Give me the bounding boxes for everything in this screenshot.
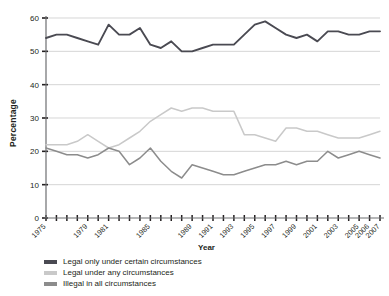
x-axis-title-text: Year <box>198 243 215 252</box>
legend-item: Legal only under certain circumstances <box>44 256 374 267</box>
legend-item: Legal under any circumstances <box>44 267 374 278</box>
x-axis-tick-label: 1999 <box>280 222 298 240</box>
gridlines-group <box>46 18 380 185</box>
x-axis-tick-label: 1985 <box>134 222 152 240</box>
chart-legend: Legal only under certain circumstancesLe… <box>44 256 374 289</box>
chart-figure: 0102030405060 19751979198119851989199119… <box>0 0 389 296</box>
legend-swatch-icon <box>44 282 57 286</box>
legend-label: Legal only under certain circumstances <box>63 256 202 267</box>
legend-swatch-icon <box>44 260 57 264</box>
y-axis-tick-label: 60 <box>30 14 39 23</box>
x-axis-tick-label: 1997 <box>259 222 277 240</box>
y-axis-tick-label: 30 <box>30 114 39 123</box>
x-axis-title: Year <box>0 243 389 252</box>
x-axis-tick-label: 1979 <box>71 222 89 240</box>
x-axis-tick-label: 1995 <box>238 222 256 240</box>
y-axis-tick-label: 50 <box>30 47 39 56</box>
axis-lines-group <box>44 16 384 218</box>
line-chart-svg: 0102030405060 19751979198119851989199119… <box>0 0 389 240</box>
data-line-3 <box>46 148 380 178</box>
x-axis-tick-labels-group: 1975197919811985198919911993199519971999… <box>30 222 382 240</box>
y-axis-ticks-group: 0102030405060 <box>30 14 48 223</box>
x-axis-tick-label: 1981 <box>92 222 110 240</box>
x-axis-tick-label: 1975 <box>30 222 48 240</box>
y-axis-tick-label: 10 <box>30 181 39 190</box>
x-axis-tick-label: 2003 <box>322 222 340 240</box>
y-axis-tick-label: 20 <box>30 147 39 156</box>
x-axis-tick-label: 1989 <box>176 222 194 240</box>
data-line-1 <box>46 21 380 51</box>
x-axis-tick-label: 1993 <box>217 222 235 240</box>
plot-area: 0102030405060 19751979198119851989199119… <box>0 0 389 240</box>
legend-label: Illegal in all circumstances <box>63 278 156 289</box>
legend-item: Illegal in all circumstances <box>44 278 374 289</box>
legend-label: Legal under any circumstances <box>63 267 174 278</box>
legend-swatch-icon <box>44 271 57 275</box>
y-axis-tick-label: 40 <box>30 81 39 90</box>
y-axis-tick-label: 0 <box>35 214 40 223</box>
data-series-group <box>46 21 380 178</box>
y-axis-title: Percentage <box>8 78 18 168</box>
x-axis-tick-label: 1991 <box>197 222 215 240</box>
x-axis-tick-label: 2001 <box>301 222 319 240</box>
data-line-2 <box>46 108 380 148</box>
